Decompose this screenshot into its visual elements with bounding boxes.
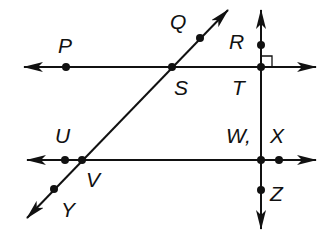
label-s: S [174,76,188,99]
label-q: Q [170,10,186,33]
labels-group: PQRSTUVW,XYZ [55,10,285,221]
geometry-diagram: PQRSTUVW,XYZ [0,0,330,242]
point-r [257,41,265,49]
point-w [257,156,265,164]
label-z: Z [269,182,284,205]
point-t [257,63,265,71]
label-x: X [269,124,285,147]
point-z [257,186,265,194]
points-group [50,34,283,194]
point-q [196,34,204,42]
point-y [50,185,58,193]
point-s [168,63,176,71]
point-u [61,156,69,164]
label-y: Y [61,198,77,221]
point-p [62,63,70,71]
label-v: V [86,168,102,191]
label-w: W, [226,124,251,147]
label-r: R [229,30,244,53]
label-u: U [55,124,71,147]
point-v [78,156,86,164]
label-t: T [232,76,247,99]
label-p: P [58,34,72,57]
point-x [275,156,283,164]
